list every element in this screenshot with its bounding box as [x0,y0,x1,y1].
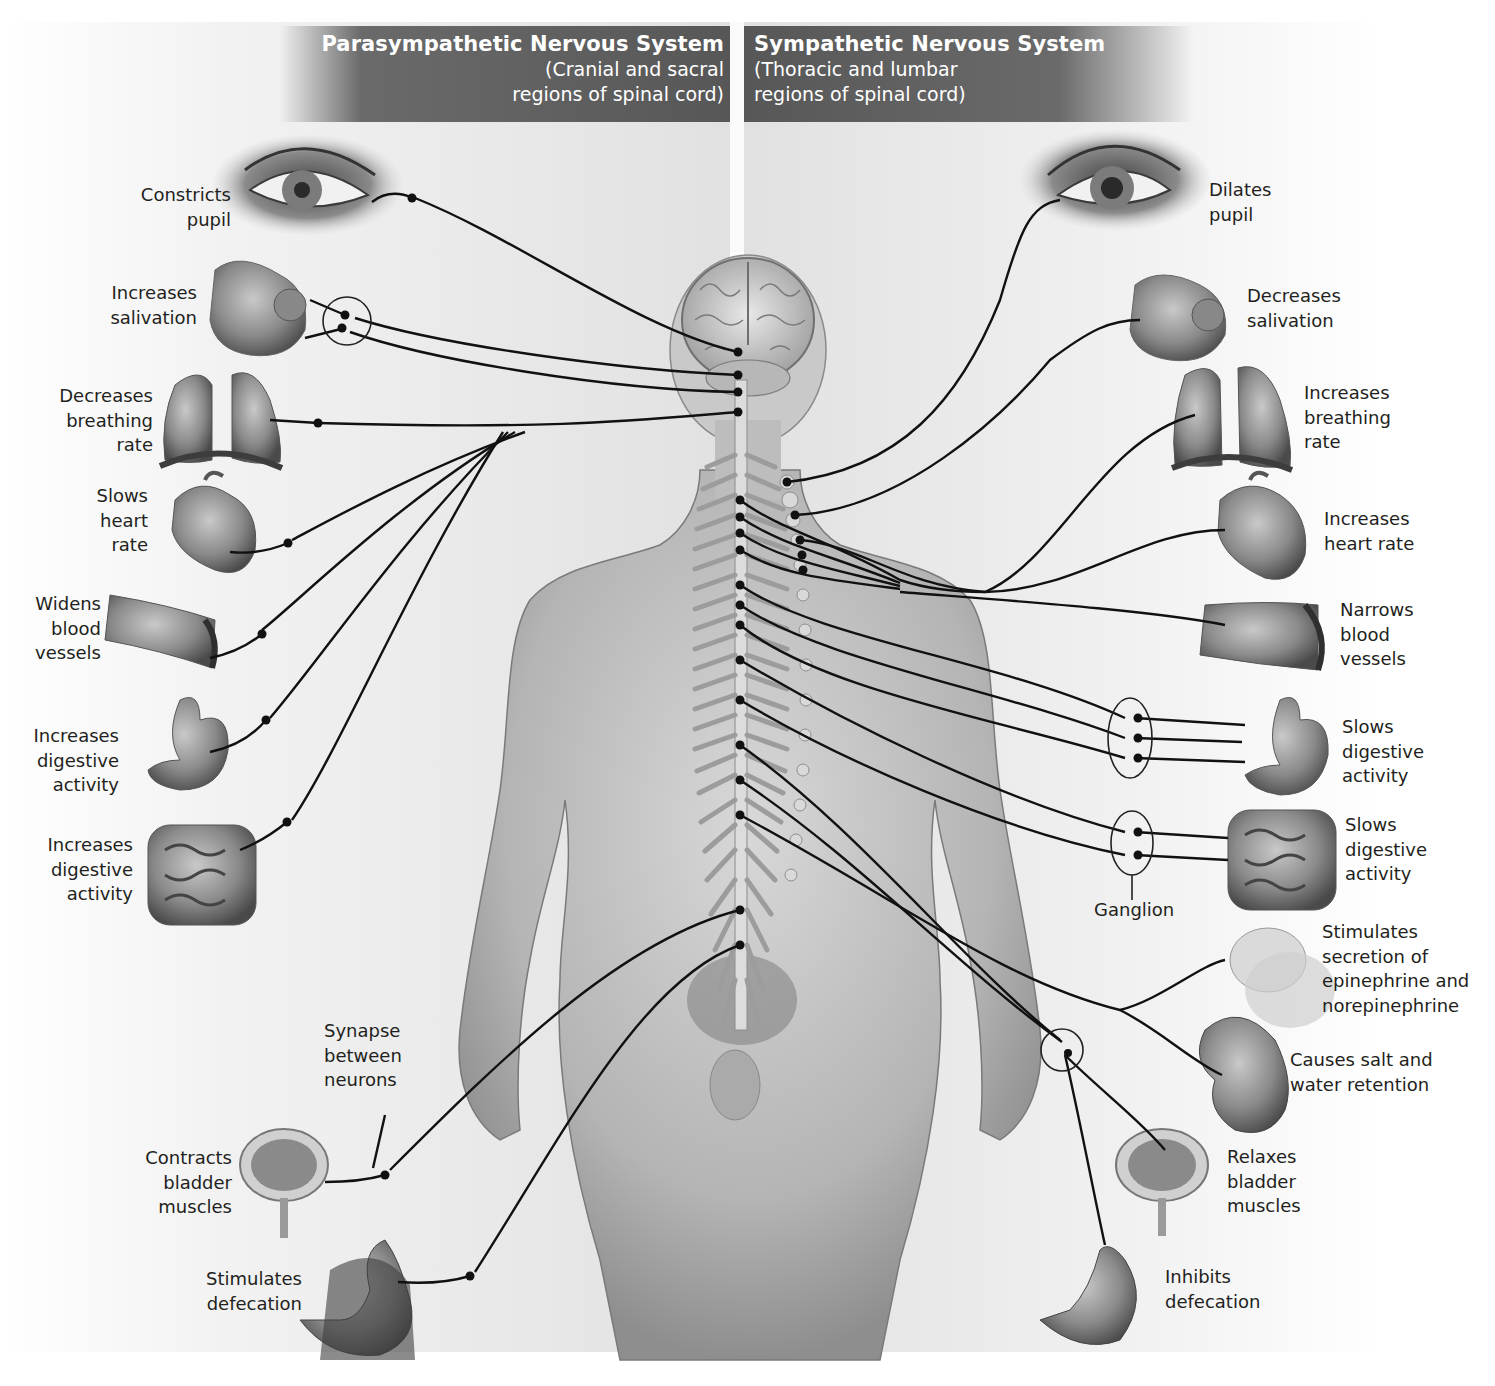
label-narrows-blood-vessels: Narrows blood vessels [1340,598,1414,672]
sympathetic-title: Sympathetic Nervous System [754,31,1194,57]
rectum-icon [300,1240,415,1360]
parasympathetic-title: Parasympathetic Nervous System [280,31,724,57]
label-constricts-pupil: Constricts pupil [141,183,231,232]
blood-vessel-icon [1200,603,1322,671]
salivary-glands-icon [210,261,306,356]
kidney-icon [1199,1017,1288,1132]
adrenal-gland-icon [1230,928,1335,1028]
label-inhibits-defecation: Inhibits defecation [1165,1265,1260,1314]
label-increases-salivation: Increases salivation [110,281,197,330]
label-slows-digestive-activity-intestines: Slows digestive activity [1345,813,1427,887]
rectum-icon [1040,1247,1136,1345]
human-body [459,255,1041,1360]
lungs-icon [160,373,282,468]
label-increases-digestive-activity-stomach: Increases digestive activity [33,724,119,798]
label-contracts-bladder-muscles: Contracts bladder muscles [145,1146,232,1220]
parasympathetic-subtitle-line2: regions of spinal cord) [280,82,724,107]
heart-icon [172,473,256,573]
sympathetic-subtitle-line1: (Thoracic and lumbar [754,57,1194,82]
label-increases-heart-rate: Increases heart rate [1324,507,1414,556]
label-ganglion: Ganglion [1094,898,1174,923]
label-stimulates-defecation: Stimulates defecation [206,1267,302,1316]
label-dilates-pupil: Dilates pupil [1209,178,1271,227]
label-increases-digestive-activity-intestines: Increases digestive activity [47,833,133,907]
sympathetic-subtitle-line2: regions of spinal cord) [754,82,1194,107]
label-causes-salt-water-retention: Causes salt and water retention [1290,1048,1433,1097]
lungs-icon [1172,367,1292,470]
label-relaxes-bladder-muscles: Relaxes bladder muscles [1227,1145,1301,1219]
label-slows-digestive-activity-stomach: Slows digestive activity [1342,715,1424,789]
eye-icon [1020,130,1210,230]
label-stimulates-epinephrine-secretion: Stimulates secretion of epinephrine and … [1322,920,1469,1018]
eye-icon [213,135,403,235]
heart-icon [1218,473,1306,580]
bladder-icon [240,1129,328,1238]
label-synapse-between-neurons: Synapse between neurons [324,1019,402,1093]
stomach-icon [148,698,228,791]
blood-vessel-icon [105,595,215,668]
label-widens-blood-vessels: Widens blood vessels [35,592,101,666]
salivary-glands-icon [1130,275,1226,361]
stomach-icon [1245,698,1328,796]
intestines-icon [1228,810,1336,910]
parasympathetic-subtitle-line1: (Cranial and sacral [280,57,724,82]
label-decreases-breathing-rate: Decreases breathing rate [59,384,153,458]
label-increases-breathing-rate: Increases breathing rate [1304,381,1391,455]
parasympathetic-header: Parasympathetic Nervous System (Cranial … [280,26,730,122]
sympathetic-header: Sympathetic Nervous System (Thoracic and… [744,26,1194,122]
label-slows-heart-rate: Slows heart rate [96,484,148,558]
label-decreases-salivation: Decreases salivation [1247,284,1341,333]
intestines-icon [148,825,256,925]
